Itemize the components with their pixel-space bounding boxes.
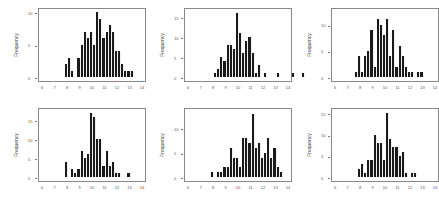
x-tick-label: 8 — [359, 185, 361, 190]
y-tick-label: 15 — [174, 16, 178, 21]
y-tick-label: 0 — [28, 76, 30, 81]
y-tick-label: 10 — [321, 133, 325, 138]
y-tick-label: 5 — [174, 56, 176, 61]
x-tick-label: 9 — [224, 85, 226, 90]
plot-area — [184, 8, 292, 82]
x-tick-label: 8 — [66, 185, 68, 190]
histogram-panel-6: Frequency05101567891011121314 — [293, 100, 439, 200]
x-tick-label: 9 — [78, 185, 80, 190]
histogram-bar — [131, 71, 134, 77]
x-tick-label: 12 — [408, 185, 412, 190]
y-tick-mark — [35, 178, 37, 179]
histogram-bar — [405, 173, 408, 177]
y-tick-mark — [35, 121, 37, 122]
x-tick-label: 11 — [248, 185, 252, 190]
y-tick-label: 5 — [28, 157, 30, 162]
y-tick-mark — [328, 178, 330, 179]
x-tick-label: 7 — [346, 185, 348, 190]
y-tick-label: 0 — [28, 176, 30, 181]
histogram-bar — [127, 173, 130, 177]
histogram-bar — [420, 72, 423, 77]
x-tick-label: 9 — [371, 185, 373, 190]
x-tick-label: 11 — [248, 85, 252, 90]
y-tick-mark — [181, 129, 183, 130]
x-tick-label: 6 — [187, 185, 189, 190]
plot-area — [331, 8, 439, 82]
histogram-bar — [65, 162, 68, 177]
x-tick-label: 6 — [187, 85, 189, 90]
plot-area — [184, 108, 292, 182]
y-axis-label: Frequency — [306, 133, 312, 157]
x-tick-label: 7 — [53, 85, 55, 90]
y-tick-mark — [35, 13, 37, 14]
x-tick-label: 12 — [261, 85, 265, 90]
histogram-panel-4: Frequency05101567891011121314 — [0, 100, 146, 200]
x-tick-label: 11 — [395, 185, 399, 190]
histogram-bar — [71, 71, 74, 77]
histogram-bar — [258, 65, 261, 77]
x-tick-label: 10 — [383, 85, 387, 90]
x-tick-label: 7 — [199, 85, 201, 90]
y-tick-label: 10 — [174, 36, 178, 41]
x-tick-label: 13 — [420, 185, 424, 190]
x-tick-label: 10 — [236, 85, 240, 90]
x-tick-label: 11 — [102, 185, 106, 190]
y-tick-label: 15 — [321, 112, 325, 117]
y-tick-label: 10 — [174, 127, 178, 132]
y-tick-mark — [328, 136, 330, 137]
histogram-bar — [118, 173, 121, 177]
histogram-panel-2: Frequency05101567891011121314 — [146, 0, 292, 100]
y-tick-mark — [181, 18, 183, 19]
x-tick-label: 6 — [334, 185, 336, 190]
x-tick-label: 7 — [53, 185, 55, 190]
y-tick-mark — [328, 157, 330, 158]
y-tick-mark — [328, 114, 330, 115]
x-tick-label: 10 — [383, 185, 387, 190]
x-tick-label: 8 — [66, 85, 68, 90]
x-tick-label: 9 — [78, 85, 80, 90]
y-axis-label: Frequency — [306, 33, 312, 57]
x-tick-label: 14 — [286, 185, 290, 190]
y-tick-mark — [35, 78, 37, 79]
x-tick-label: 6 — [41, 85, 43, 90]
x-tick-label: 13 — [420, 85, 424, 90]
histogram-bar — [414, 173, 417, 177]
x-tick-label: 7 — [199, 185, 201, 190]
x-tick-label: 12 — [115, 85, 119, 90]
x-tick-label: 8 — [359, 85, 361, 90]
histogram-panel-1: Frequency051067891011121314 — [0, 0, 146, 100]
histogram-bar — [211, 172, 214, 177]
y-tick-label: 0 — [174, 76, 176, 81]
y-tick-label: 15 — [28, 119, 32, 124]
histogram-bar — [264, 73, 267, 77]
histogram-bar — [411, 72, 414, 77]
x-tick-label: 14 — [140, 85, 144, 90]
y-tick-label: 5 — [28, 43, 30, 48]
histogram-bar — [277, 73, 280, 77]
x-tick-label: 11 — [102, 85, 106, 90]
y-tick-label: 0 — [174, 176, 176, 181]
histogram-panel-5: Frequency051067891011121314 — [146, 100, 292, 200]
x-tick-label: 12 — [408, 85, 412, 90]
plot-area — [38, 108, 146, 182]
y-tick-mark — [328, 26, 330, 27]
y-tick-label: 10 — [28, 11, 32, 16]
y-axis-label: Frequency — [13, 33, 19, 57]
x-tick-label: 6 — [334, 85, 336, 90]
plot-area — [331, 108, 439, 182]
y-tick-label: 5 — [321, 49, 323, 54]
x-tick-label: 12 — [261, 185, 265, 190]
x-tick-label: 7 — [346, 85, 348, 90]
x-tick-label: 8 — [212, 185, 214, 190]
x-tick-label: 14 — [140, 185, 144, 190]
x-tick-label: 10 — [236, 185, 240, 190]
x-tick-label: 6 — [41, 185, 43, 190]
x-tick-label: 13 — [273, 185, 277, 190]
x-tick-label: 13 — [127, 185, 131, 190]
x-tick-label: 9 — [224, 185, 226, 190]
y-tick-mark — [35, 46, 37, 47]
y-tick-label: 0 — [321, 76, 323, 81]
histogram-bar — [280, 172, 283, 177]
y-tick-label: 10 — [28, 138, 32, 143]
x-tick-label: 11 — [395, 85, 399, 90]
